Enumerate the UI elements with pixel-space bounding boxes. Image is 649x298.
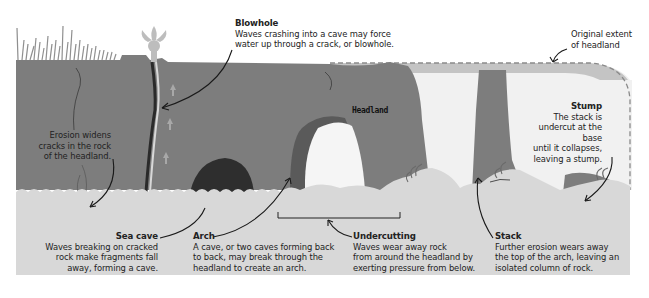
undercutting-title: Undercutting	[353, 231, 475, 242]
erosion-line: of the headland.	[44, 151, 111, 161]
stack-line: Further erosion wears away	[495, 242, 608, 252]
undercutting-label: Undercutting Waves wear away rock from a…	[353, 231, 475, 273]
sea-cave-line: rock make fragments fall	[56, 252, 158, 262]
stack-label: Stack Further erosion wears away the top…	[495, 231, 619, 273]
undercutting-line: Waves wear away rock	[353, 242, 447, 252]
erosion-line: cracks in the rock	[39, 141, 111, 151]
arch-label: Arch A cave, or two caves forming back t…	[193, 231, 334, 273]
blowhole-title: Blowhole	[235, 18, 394, 29]
arch-line: A cave, or two caves forming back	[193, 242, 334, 252]
arch-line: to back, may break through the	[193, 252, 323, 262]
erosion-line: Erosion widens	[50, 130, 111, 140]
blowhole-line: Waves crashing into a cave may force	[235, 29, 391, 39]
undercutting-line: exerting pressure from below.	[353, 263, 475, 273]
stump-line: The stack is	[553, 112, 602, 122]
stack-title: Stack	[495, 231, 619, 242]
grass	[17, 26, 116, 60]
arch-title: Arch	[193, 231, 334, 242]
arch-line: headland to create an arch.	[193, 263, 306, 273]
stack-line: isolated column of rock.	[495, 263, 593, 273]
sea-cave-label: Sea cave Waves breaking on cracked rock …	[30, 231, 158, 273]
original-extent-arrow	[553, 49, 567, 62]
sea-cave-line: Waves breaking on cracked	[45, 242, 158, 252]
stump-title: Stump	[520, 101, 602, 112]
blowhole-label: Blowhole Waves crashing into a cave may …	[235, 18, 394, 50]
original-extent-line: Original extent	[571, 29, 632, 39]
original-extent-label: Original extent of headland	[571, 29, 632, 50]
stump-line: undercut at the base	[538, 122, 602, 143]
stump-line: until it collapses,	[533, 143, 602, 153]
stump-line: leaving a stump.	[534, 154, 602, 164]
undercutting-line: from around the headland by	[353, 252, 473, 262]
stack-line: the top of the arch, leaving an	[495, 252, 619, 262]
erosion-label: Erosion widens cracks in the rock of the…	[20, 130, 111, 162]
stump-label: Stump The stack is undercut at the base …	[520, 101, 602, 165]
headland-label: Headland	[352, 106, 388, 115]
sea-cave-title: Sea cave	[30, 231, 158, 242]
original-extent-line: of headland	[571, 40, 620, 50]
blowhole-line: water up through a crack, or blowhole.	[235, 39, 394, 49]
sea-cave-line: away, forming a cave.	[67, 263, 158, 273]
